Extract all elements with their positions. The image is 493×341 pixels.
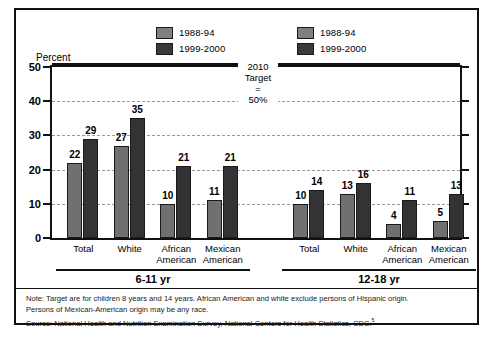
x-axis-category-line: American — [203, 254, 243, 265]
legend-item: 1999-2000 — [297, 42, 366, 55]
y-axis-tick-right — [462, 66, 469, 68]
x-axis-line — [50, 238, 462, 240]
x-axis-category-line: American — [156, 254, 196, 265]
x-axis-category-label: Total — [73, 243, 93, 254]
legend-swatch-1999-2000 — [297, 43, 314, 55]
bar-value-label: 16 — [358, 169, 369, 180]
bar-value-label: 5 — [437, 207, 443, 218]
bar-value-label: 29 — [85, 125, 96, 136]
y-axis-tick — [43, 100, 50, 102]
x-axis-category-line: Total — [299, 243, 319, 254]
target-annotation-line: 2010 — [241, 61, 275, 72]
x-axis-category-line: Total — [73, 243, 93, 254]
source-text: Source: National Health and Nutrition Ex… — [26, 319, 372, 328]
x-axis-category-label: White — [344, 243, 368, 254]
notes-block: Note: Target are for children 8 years an… — [26, 294, 466, 329]
source-footnote-marker: 5 — [372, 317, 375, 323]
y-axis-tick — [43, 237, 50, 239]
y-axis-tick-right — [462, 100, 469, 102]
plot-area: 010203040502010Target =50%22292735102111… — [50, 65, 462, 240]
notes-divider — [16, 288, 477, 289]
x-axis-category-line: American — [382, 254, 422, 265]
bar-value-label: 35 — [132, 104, 143, 115]
y-axis-tick-label: 30 — [29, 129, 41, 141]
bar-1999-2000 — [83, 139, 98, 238]
legend-right: 1988-94 1999-2000 — [297, 26, 366, 55]
bar-1999-2000 — [309, 190, 324, 238]
bar-value-label: 11 — [209, 186, 220, 197]
bar-1988-94 — [293, 204, 308, 238]
bar-1999-2000 — [402, 200, 417, 238]
legend-label: 1999-2000 — [320, 43, 366, 54]
bar-1999-2000 — [449, 194, 464, 238]
y-axis-title: Percent — [36, 52, 70, 63]
y-axis-tick — [43, 134, 50, 136]
bar-value-label: 27 — [116, 132, 127, 143]
bar-1988-94 — [433, 221, 448, 238]
legend-swatch-1988-94 — [297, 27, 314, 39]
bar-1988-94 — [67, 163, 82, 238]
target-annotation-line: 50% — [241, 94, 275, 105]
x-axis-category-line: Mexican — [203, 243, 243, 254]
x-axis-category-label: MexicanAmerican — [203, 243, 243, 265]
y-axis-tick-label: 50 — [29, 61, 41, 73]
legend-item: 1988-94 — [156, 26, 225, 39]
bar-1988-94 — [114, 146, 129, 238]
legend-item: 1988-94 — [297, 26, 366, 39]
bar-1999-2000 — [176, 166, 191, 238]
legend-label: 1999-2000 — [179, 43, 225, 54]
y-axis-tick-label: 40 — [29, 95, 41, 107]
y-axis-line — [50, 65, 52, 240]
y-axis-tick-label: 10 — [29, 198, 41, 210]
x-axis-category-line: White — [118, 243, 142, 254]
legend-swatch-1988-94 — [156, 27, 173, 39]
bar-1988-94 — [386, 224, 401, 238]
gridline — [52, 135, 460, 136]
group-rule — [56, 269, 250, 271]
y-axis-tick-label: 0 — [35, 232, 41, 244]
legend-label: 1988-94 — [320, 27, 356, 38]
bar-value-label: 13 — [451, 180, 462, 191]
legend-label: 1988-94 — [179, 27, 215, 38]
x-axis-category-line: African — [382, 243, 422, 254]
group-label: 12-18 yr — [358, 273, 400, 285]
target-line — [272, 63, 460, 67]
y-axis-tick — [43, 203, 50, 205]
bar-value-label: 21 — [225, 152, 236, 163]
y-axis-tick-right — [462, 134, 469, 136]
note-line-2: Persons of Mexican-American origin may b… — [26, 305, 466, 316]
group-rule — [282, 269, 476, 271]
y-axis-tick-label: 20 — [29, 164, 41, 176]
bar-value-label: 11 — [404, 186, 415, 197]
bar-value-label: 4 — [391, 210, 397, 221]
bar-1999-2000 — [223, 166, 238, 238]
note-line-1: Note: Target are for children 8 years an… — [26, 294, 466, 305]
group-label: 6-11 yr — [136, 273, 171, 285]
target-annotation-line: Target = — [241, 72, 275, 94]
bar-value-label: 21 — [178, 152, 189, 163]
bar-1999-2000 — [356, 183, 371, 238]
bar-1988-94 — [340, 194, 355, 238]
x-axis-category-label: AfricanAmerican — [156, 243, 196, 265]
legend-left: 1988-94 1999-2000 — [156, 26, 225, 55]
x-axis-category-label: White — [118, 243, 142, 254]
source-line: Source: National Health and Nutrition Ex… — [26, 315, 466, 329]
y-axis-tick — [43, 169, 50, 171]
y-axis-tick — [43, 66, 50, 68]
bar-value-label: 14 — [311, 176, 322, 187]
x-axis-category-label: Total — [299, 243, 319, 254]
target-line — [52, 63, 238, 67]
x-axis-category-line: African — [156, 243, 196, 254]
bar-1988-94 — [207, 200, 222, 238]
bar-1999-2000 — [130, 118, 145, 238]
x-axis-category-label: MexicanAmerican — [429, 243, 469, 265]
target-annotation: 2010Target =50% — [238, 61, 278, 105]
bar-1988-94 — [160, 204, 175, 238]
bar-value-label: 22 — [69, 149, 80, 160]
x-axis-category-line: American — [429, 254, 469, 265]
figure-panel: 1988-94 1999-2000 1988-94 1999-2000 Perc… — [14, 8, 479, 325]
bar-value-label: 10 — [295, 190, 306, 201]
bar-value-label: 13 — [342, 180, 353, 191]
bar-value-label: 10 — [162, 190, 173, 201]
x-axis-category-line: White — [344, 243, 368, 254]
